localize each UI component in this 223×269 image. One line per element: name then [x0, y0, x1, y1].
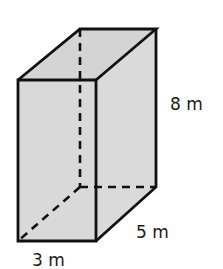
depth-label: 5 m — [136, 224, 169, 241]
front-face — [18, 80, 96, 241]
rectangular-prism-diagram — [0, 0, 223, 269]
height-label: 8 m — [170, 96, 203, 113]
width-label: 3 m — [32, 252, 65, 269]
